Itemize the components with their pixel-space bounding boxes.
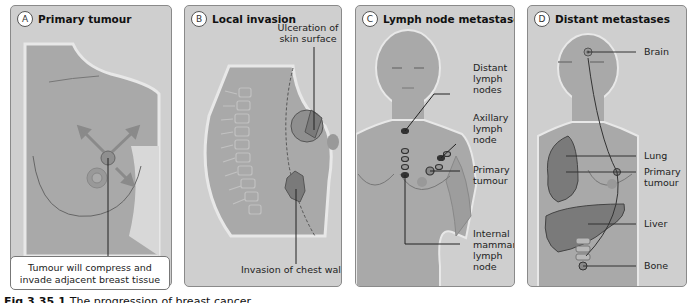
panel-distant-metastases: D Distant metastases [527, 5, 687, 287]
panel-header: C Lymph node metastases [362, 11, 515, 27]
side-section-illustration [185, 6, 342, 287]
label-primary-tumour: Primary tumour [644, 166, 686, 188]
panel-local-invasion: B Local invasion Ulceration of sk [184, 5, 342, 287]
caption-text: The progression of breast cancer [70, 295, 251, 303]
panel-letter-badge: A [17, 11, 33, 27]
label-primary-tumour: Primary tumour [473, 164, 515, 186]
panel-header: D Distant metastases [534, 11, 670, 27]
label-internal-mammary-node: Internal mammary lymph node [473, 228, 515, 272]
panel-title: Distant metastases [555, 13, 670, 25]
figure-caption: Fig 3.35.1 The progression of breast can… [4, 295, 251, 303]
panel-letter-badge: B [191, 11, 207, 27]
label-brain: Brain [644, 46, 669, 57]
label-liver: Liver [644, 218, 667, 229]
panel-title: Lymph node metastases [383, 13, 515, 25]
panel-primary-tumour: A Primary tumour [10, 5, 172, 287]
label-bone: Bone [644, 260, 668, 271]
panel-title: Primary tumour [38, 13, 131, 25]
panel-letter-badge: D [534, 11, 550, 27]
label-axillary-lymph-node: Axillary lymph node [473, 112, 515, 145]
panel-letter-badge: C [362, 11, 378, 27]
label-lung: Lung [644, 150, 667, 161]
tumour-callout-box: Tumour will compress and invade adjacent… [10, 256, 170, 290]
caption-label: Fig 3.35.1 [4, 295, 66, 303]
label-chest-wall-invasion: Invasion of chest wall [241, 264, 342, 275]
panel-header: A Primary tumour [17, 11, 131, 27]
breast-front-illustration [11, 6, 172, 287]
label-distant-lymph-nodes: Distant lymph nodes [473, 62, 515, 95]
label-ulceration: Ulceration of skin surface [277, 22, 339, 44]
panel-lymph-node-metastases: C Lymph node metastases [355, 5, 515, 287]
